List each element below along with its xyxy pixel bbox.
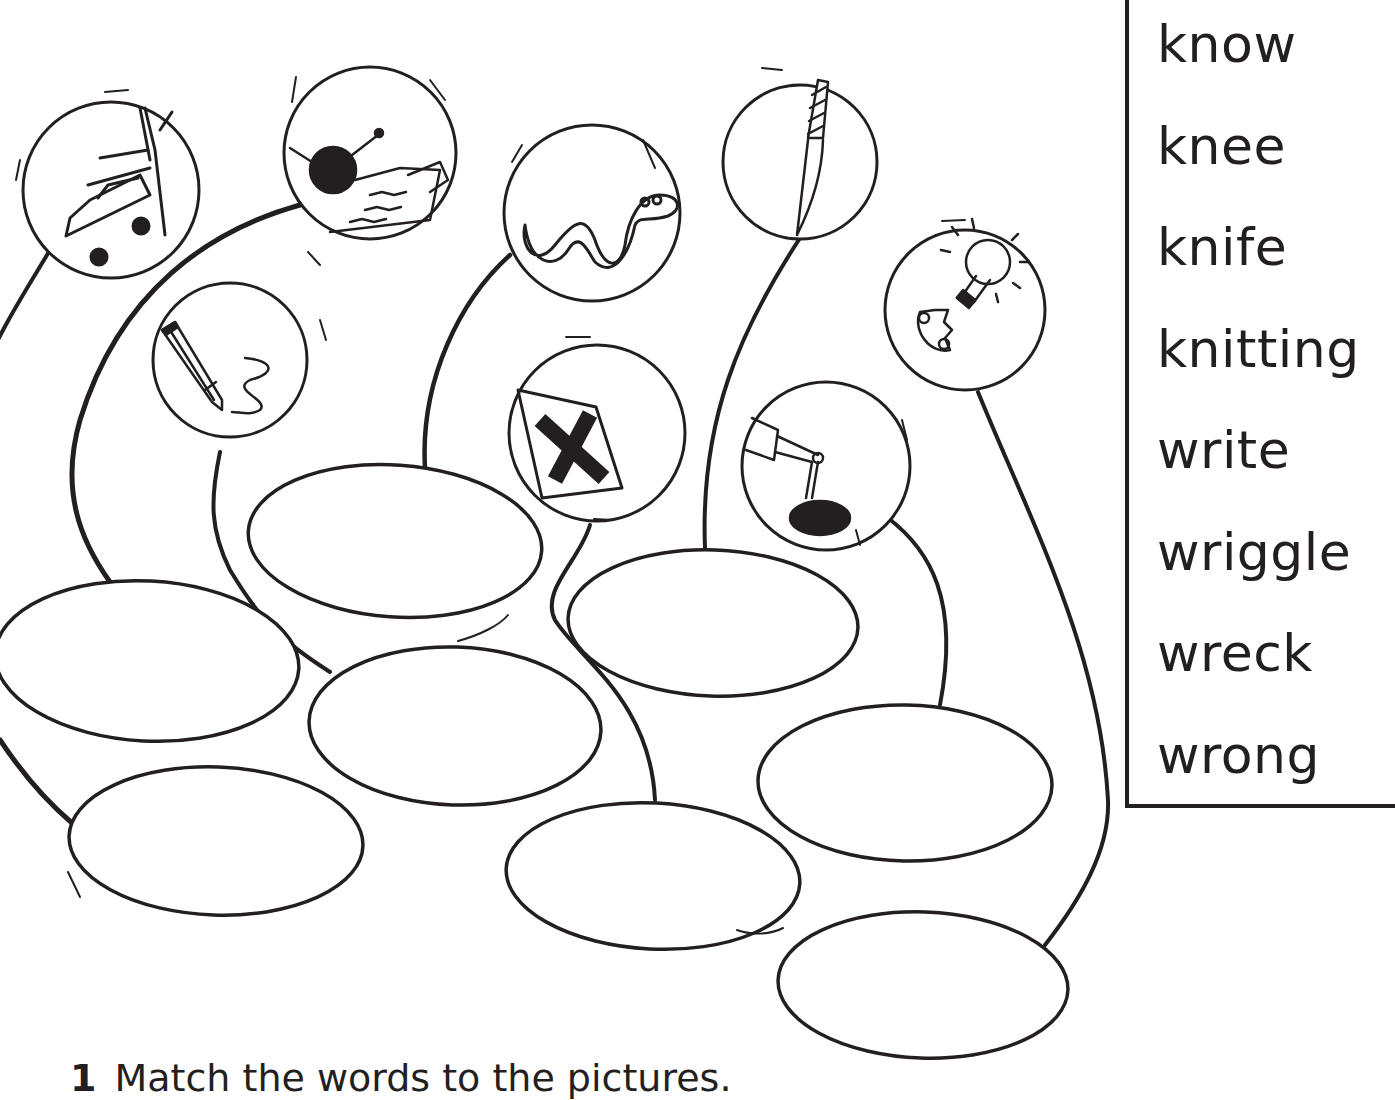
answer-ovals [0, 455, 1070, 1063]
picture-write [153, 283, 307, 437]
answer-oval-8[interactable] [776, 907, 1071, 1063]
word-wrong[interactable]: wrong [1157, 705, 1360, 807]
word-know[interactable]: know [1157, 0, 1360, 96]
word-knife[interactable]: knife [1157, 197, 1360, 299]
word-bank: know knee knife knitting write wriggle w… [1125, 0, 1395, 808]
word-write[interactable]: write [1157, 400, 1360, 502]
instruction-text: Match the words to the pictures. [114, 1056, 731, 1100]
answer-oval-7[interactable] [502, 795, 803, 956]
picture-knitting [284, 67, 456, 239]
word-list: know knee knife knitting write wriggle w… [1157, 0, 1360, 806]
answer-oval-1[interactable] [243, 455, 547, 627]
picture-wriggle [504, 125, 680, 301]
picture-knife [723, 80, 877, 239]
answer-oval-3[interactable] [566, 545, 861, 701]
picture-wreck [23, 102, 199, 278]
picture-knee [742, 382, 910, 550]
answer-oval-4[interactable] [306, 642, 603, 810]
word-knee[interactable]: knee [1157, 96, 1360, 198]
word-wriggle[interactable]: wriggle [1157, 502, 1360, 604]
exercise-number: 1 [70, 1056, 96, 1100]
answer-oval-5[interactable] [757, 702, 1054, 863]
word-knitting[interactable]: knitting [1157, 299, 1360, 401]
exercise-instruction: 1Match the words to the pictures. [70, 1056, 731, 1100]
picture-know [885, 219, 1045, 390]
answer-oval-2[interactable] [0, 573, 303, 749]
answer-oval-6[interactable] [67, 762, 366, 920]
word-wreck[interactable]: wreck [1157, 603, 1360, 705]
picture-wrong [509, 345, 685, 521]
